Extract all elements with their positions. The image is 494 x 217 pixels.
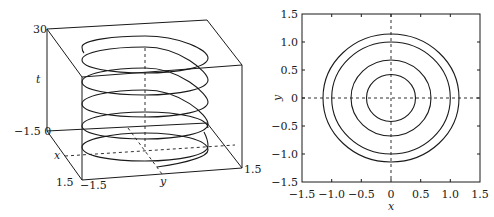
y-axis-label: y [271,94,284,102]
svg-text:−1.5: −1.5 [289,188,316,201]
y-min-label: −1.5 [80,179,107,192]
figure: 30 t −1.5 0 x 1.5 −1.5 y 1.5 [0,0,494,217]
svg-text:0.5: 0.5 [281,64,299,77]
svg-text:0: 0 [291,92,298,105]
svg-text:1.0: 1.0 [442,188,460,201]
svg-text:−1.0: −1.0 [271,148,298,161]
x-axis-label: x [388,200,395,213]
helix-3d-plot: 30 t −1.5 0 x 1.5 −1.5 y 1.5 [14,20,262,192]
y-axis-label: y [159,175,167,188]
svg-text:−1.0: −1.0 [318,188,345,201]
svg-text:1.0: 1.0 [281,36,299,49]
box-frame [47,20,242,180]
z-max-label: 30 [33,23,47,36]
svg-text:−1.5: −1.5 [271,176,298,189]
x-axis-label: x [54,149,61,162]
phase-portrait-plot: −1.5 −1.0 −0.5 0 0.5 1.0 1.5 x 1.5 1.0 0… [271,8,489,213]
y-max-label: 1.5 [244,163,262,176]
x-max-label: 1.5 [56,176,74,189]
svg-text:1.5: 1.5 [471,188,489,201]
svg-text:1.5: 1.5 [281,8,299,21]
svg-text:0.5: 0.5 [412,188,430,201]
svg-text:−0.5: −0.5 [271,120,298,133]
t-axis-label: t [36,73,41,86]
svg-text:−0.5: −0.5 [348,188,375,201]
x-min-z-min-label: −1.5 0 [14,125,51,138]
